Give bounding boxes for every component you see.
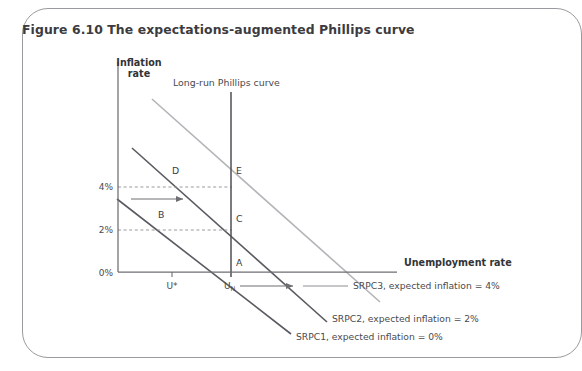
lrpc-label: Long-run Phillips curve <box>173 77 280 88</box>
srpc1-label: SRPC1, expected inflation = 0% <box>296 331 443 342</box>
ytick-label-4pct: 4% <box>99 182 114 192</box>
y-axis-title-line1: Inflation <box>116 57 161 68</box>
point-label-c: C <box>236 213 243 224</box>
point-label-d: D <box>172 165 179 176</box>
xtick-un-subscript: N <box>231 285 236 293</box>
srpc2-label: SRPC2, expected inflation = 2% <box>332 313 479 324</box>
ytick-label-0pct: 0% <box>99 268 114 278</box>
xtick-un-base: U <box>224 281 231 291</box>
xtick-label-un: UN <box>224 281 236 293</box>
x-axis-title: Unemployment rate <box>404 257 512 268</box>
point-label-e: E <box>236 165 242 176</box>
ytick-label-2pct: 2% <box>99 225 114 235</box>
srpc2-curve <box>132 148 327 322</box>
srpc3-label: SRPC3, expected inflation = 4% <box>353 280 500 291</box>
xtick-label-ustar: U* <box>166 281 178 291</box>
point-label-a: A <box>236 257 243 268</box>
point-label-b: B <box>158 209 164 220</box>
y-axis-title-line2: rate <box>128 68 151 79</box>
